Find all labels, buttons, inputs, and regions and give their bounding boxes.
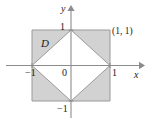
y-axis-arrowhead-icon: [67, 5, 74, 11]
y-tick-label-one: 1: [60, 22, 65, 32]
y-axis-label: y: [61, 4, 65, 14]
point-annotation-one-one: (1, 1): [112, 27, 133, 37]
region-label-D: D: [41, 38, 49, 49]
x-tick-label-one: 1: [112, 68, 117, 78]
figure-container: y 1 (1, 1) D −1 0 1 x −1: [0, 0, 148, 125]
y-tick-label-negative-one: −1: [57, 104, 68, 114]
coordinate-plane-graphic: [0, 0, 148, 125]
x-axis-arrowhead-icon: [139, 62, 145, 69]
origin-label: 0: [62, 68, 67, 78]
x-tick-label-negative-one: −1: [25, 68, 36, 78]
x-axis-label: x: [134, 70, 138, 80]
